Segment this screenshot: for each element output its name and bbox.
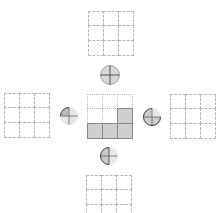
rotation-dial-three-quarter-icon (143, 108, 161, 126)
grid-cell (34, 93, 50, 109)
grid-cell (118, 40, 134, 56)
grid-cell (101, 204, 117, 213)
right-grid (170, 94, 216, 138)
grid-cell (87, 94, 103, 110)
grid-cell (19, 93, 35, 109)
grid-cell (116, 175, 132, 191)
grid-cell-filled (87, 123, 103, 139)
grid-cell (86, 189, 102, 205)
rotation-dial-quarter-icon (60, 107, 78, 125)
grid-cell (185, 108, 201, 124)
grid-cell (19, 107, 35, 123)
grid-cell (103, 11, 119, 27)
grid-cell (86, 175, 102, 191)
grid-cell-filled (102, 123, 118, 139)
top-grid (88, 11, 134, 55)
grid-cell (200, 123, 216, 139)
grid-cell (170, 123, 186, 139)
grid-cell (170, 94, 186, 110)
center-grid (87, 94, 133, 138)
grid-cell (101, 175, 117, 191)
grid-cell (19, 122, 35, 138)
grid-cell (117, 94, 133, 110)
grid-cell (185, 94, 201, 110)
grid-cell (103, 25, 119, 41)
grid-cell (34, 107, 50, 123)
rotation-dial-full-icon (100, 65, 120, 85)
grid-cell (86, 204, 102, 213)
left-grid (4, 93, 50, 137)
grid-cell (103, 40, 119, 56)
grid-cell (200, 108, 216, 124)
grid-cell (102, 108, 118, 124)
grid-cell (88, 11, 104, 27)
grid-cell (185, 123, 201, 139)
grid-cell-filled (117, 108, 133, 124)
grid-cell (118, 11, 134, 27)
grid-cell (101, 189, 117, 205)
grid-cell (88, 40, 104, 56)
grid-cell (4, 122, 20, 138)
grid-cell (34, 122, 50, 138)
grid-cell (4, 93, 20, 109)
grid-cell (170, 108, 186, 124)
grid-cell (118, 25, 134, 41)
grid-cell (4, 107, 20, 123)
grid-cell (102, 94, 118, 110)
bottom-grid (86, 175, 132, 213)
rotation-dial-half-icon (100, 147, 118, 165)
grid-cell (87, 108, 103, 124)
grid-cell-filled (117, 123, 133, 139)
grid-cell (88, 25, 104, 41)
grid-cell (116, 204, 132, 213)
grid-cell (200, 94, 216, 110)
grid-cell (116, 189, 132, 205)
